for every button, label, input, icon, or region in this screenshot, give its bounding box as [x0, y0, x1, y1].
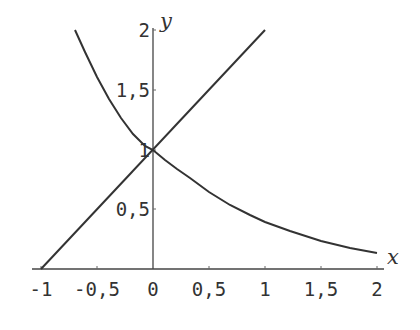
y-tick-labels: 0,5 1 1,5 2 [116, 19, 150, 220]
svg-text:1,5: 1,5 [304, 278, 338, 300]
x-tick-labels: -1 -0,5 0 0,5 1 1,5 2 [30, 278, 383, 300]
chart: -1 -0,5 0 0,5 1 1,5 2 0,5 1 1,5 2 y x [0, 0, 420, 330]
x-axis-label: x [387, 245, 399, 269]
svg-text:0,5: 0,5 [192, 278, 226, 300]
svg-text:-0,5: -0,5 [74, 278, 120, 300]
y-axis-label: y [159, 9, 173, 33]
svg-text:1,5: 1,5 [116, 79, 150, 101]
svg-text:1: 1 [139, 139, 150, 161]
svg-text:-1: -1 [30, 278, 53, 300]
svg-text:0: 0 [147, 278, 158, 300]
svg-text:1: 1 [259, 278, 270, 300]
svg-text:2: 2 [139, 19, 150, 41]
svg-text:2: 2 [371, 278, 382, 300]
svg-text:0,5: 0,5 [116, 198, 150, 220]
